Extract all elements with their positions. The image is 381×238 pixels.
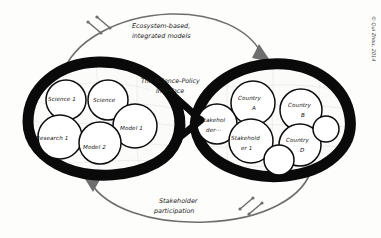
- label-stakeholder-1-line1: Stakehold: [231, 135, 260, 141]
- label-model-2: Model 2: [83, 144, 106, 150]
- label-science: Science: [93, 97, 116, 103]
- bottom-annotation-line2: participation: [153, 207, 194, 215]
- label-country-d-line2: D: [300, 147, 305, 153]
- label-science-1: Science 1: [48, 96, 76, 102]
- science-policy-interface-diagram: Ecosystem-based, integrated models Stake…: [0, 0, 381, 238]
- diagram-canvas: Ecosystem-based, integrated models Stake…: [0, 0, 381, 238]
- top-annotation-line1: Ecosystem-based,: [132, 22, 190, 30]
- node-extra-small-2: [313, 116, 339, 142]
- center-label-line2: Interface: [156, 87, 184, 94]
- label-model-1: Model 1: [120, 125, 143, 131]
- node-extra-small: [264, 145, 294, 175]
- label-research-1: Research 1: [36, 135, 68, 141]
- credit-text: © Qui Zhou, 2014: [371, 16, 377, 61]
- node-model-2: [79, 122, 121, 164]
- policy-lobe: Country A Country B Stakehol der··· Stak…: [192, 62, 352, 178]
- label-stakeholder-dots-line2: der···: [206, 127, 221, 133]
- center-label-line1: The Science-Policy: [141, 77, 200, 85]
- bottom-annotation-line1: Stakeholder: [159, 197, 198, 205]
- label-country-a-line1: Country: [238, 95, 262, 102]
- label-stakeholder-1-line2: er 1: [241, 145, 252, 151]
- label-country-a-line2: A: [251, 105, 256, 111]
- label-country-b-line1: Country: [288, 102, 312, 109]
- label-country-b-line2: B: [301, 112, 305, 118]
- label-country-d-line1: Country: [286, 137, 310, 144]
- top-annotation-line2: integrated models: [132, 32, 191, 40]
